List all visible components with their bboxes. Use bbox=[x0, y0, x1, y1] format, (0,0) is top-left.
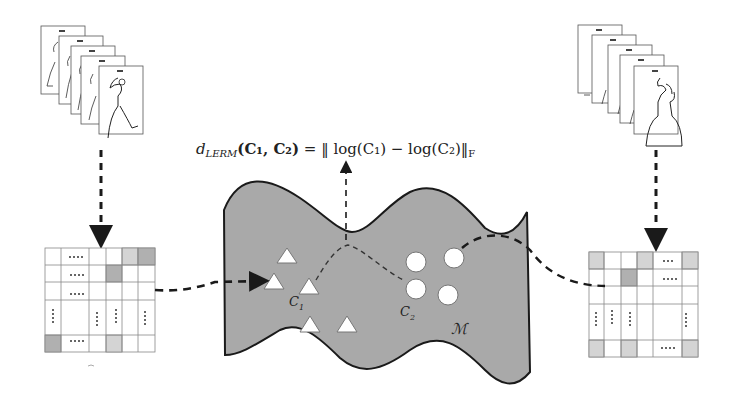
left-covariance-matrix bbox=[45, 248, 155, 352]
lerm-distance-formula: dLERM(C₁, C₂) = ‖ log(C₁) − log(C₂)‖F bbox=[196, 140, 475, 159]
diagram-canvas bbox=[0, 0, 730, 398]
right-sketch-stack bbox=[578, 25, 682, 146]
right-covariance-matrix bbox=[589, 252, 698, 357]
c1-label: C1 bbox=[289, 294, 304, 312]
left-sketch-stack bbox=[41, 26, 143, 138]
c2-label: C2 bbox=[400, 304, 415, 322]
manifold-label: ℳ bbox=[451, 320, 467, 338]
